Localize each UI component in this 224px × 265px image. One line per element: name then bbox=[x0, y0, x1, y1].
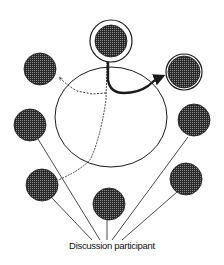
participant-right-top-addressee bbox=[166, 54, 202, 90]
participant-left-bottom bbox=[26, 169, 58, 201]
discussion-diagram bbox=[0, 0, 224, 265]
central-discussion-space bbox=[55, 67, 167, 167]
participant-bottom-center bbox=[93, 188, 125, 220]
thick-arrow-to-right-top bbox=[108, 62, 161, 93]
participant-right-middle bbox=[178, 104, 210, 136]
participant-left-top bbox=[24, 53, 56, 85]
participant-top-speaker bbox=[90, 20, 132, 62]
participant-left-middle bbox=[14, 109, 46, 141]
discussion-participant-label: Discussion participant bbox=[0, 240, 224, 251]
participant-right-bottom bbox=[170, 163, 202, 195]
connection-top-to-left-bottom bbox=[58, 62, 107, 180]
